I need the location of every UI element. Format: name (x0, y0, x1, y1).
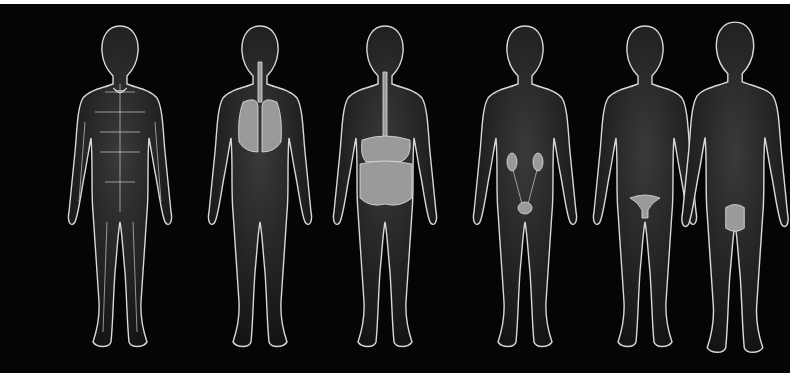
figure-urinary: Urinary system (470, 22, 580, 352)
figure-respiratory: Respiratory system (205, 22, 315, 352)
figure-reproductive-male: Male reproductive system (675, 18, 790, 358)
figure-lymphatic: Lymphatic system (65, 22, 175, 352)
anatomy-illustration: Lymphatic system Respiratory system Dige… (0, 4, 790, 373)
figure-digestive: Digestive system (330, 22, 440, 352)
